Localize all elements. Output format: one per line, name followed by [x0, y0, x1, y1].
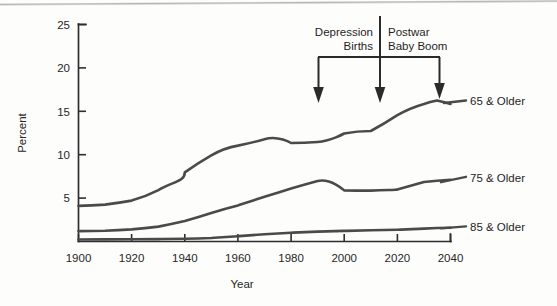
series-label-65-older: 65 & Older [470, 95, 525, 107]
y-tick-label-20: 20 [57, 62, 70, 74]
annotation-arrow-head-middle [375, 87, 386, 103]
y-tick-label-15: 15 [57, 106, 70, 118]
x-axis-title: Year [230, 278, 253, 290]
x-tick-label-1960: 1960 [225, 252, 251, 264]
y-tick-labels: 25 20 15 10 5 [57, 19, 70, 205]
x-tick-label-2000: 2000 [331, 252, 357, 264]
population-aging-line-chart: 25 20 15 10 5 1900 1920 1940 1960 1980 2… [0, 0, 557, 306]
annotation-arrow-head-right [434, 83, 445, 99]
x-tick-labels: 1900 1920 1940 1960 1980 2000 2020 2040 [66, 252, 464, 264]
y-tick-label-10: 10 [57, 149, 70, 161]
y-axis-title: Percent [16, 112, 28, 152]
series-label-75-older: 75 & Older [470, 172, 525, 184]
x-tick-label-2040: 2040 [438, 252, 464, 264]
annotation-postwar-line2: Baby Boom [388, 40, 447, 52]
series-group [79, 101, 451, 240]
x-tick-label-1920: 1920 [119, 252, 145, 264]
x-tick-label-2020: 2020 [385, 252, 411, 264]
y-tick-label-5: 5 [64, 192, 70, 204]
series-labels-group: 65 & Older 75 & Older 85 & Older [441, 95, 525, 234]
annotation-postwar-line1: Postwar [388, 26, 430, 38]
annotation-group: Depression Births Postwar Baby Boom [313, 16, 447, 103]
chart-page: 25 20 15 10 5 1900 1920 1940 1960 1980 2… [0, 0, 557, 306]
x-tick-label-1980: 1980 [278, 252, 304, 264]
annotation-depression-line2: Births [344, 40, 374, 52]
series-line-75-older [79, 180, 451, 231]
series-label-85-older: 85 & Older [470, 221, 525, 233]
x-tick-label-1900: 1900 [66, 252, 92, 264]
leader-line-65-older [444, 101, 466, 104]
annotation-arrow-head-left [313, 87, 324, 103]
y-tick-label-25: 25 [57, 19, 70, 31]
annotation-depression-line1: Depression [315, 26, 373, 38]
x-tick-label-1940: 1940 [172, 252, 198, 264]
